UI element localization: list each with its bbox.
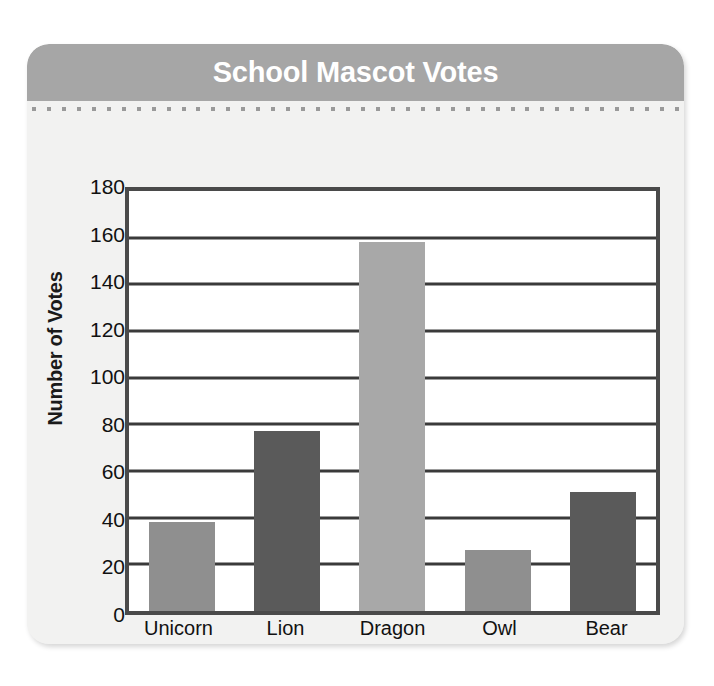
bar-slot	[445, 191, 550, 611]
strip-dot	[137, 107, 141, 111]
strip-dot	[47, 107, 51, 111]
strip-dot	[256, 107, 260, 111]
chart-card: School Mascot Votes Number of Votes 0204…	[27, 44, 684, 644]
strip-dot	[511, 107, 515, 111]
strip-dot	[406, 107, 410, 111]
chart-page: School Mascot Votes Number of Votes 0204…	[0, 0, 714, 686]
strip-dot	[570, 107, 574, 111]
bar-slot	[129, 191, 234, 611]
strip-dot	[376, 107, 380, 111]
chart-header-bar: School Mascot Votes	[27, 44, 684, 101]
y-tick-label: 120	[65, 318, 125, 342]
y-tick-label: 60	[65, 460, 125, 484]
strip-dot	[346, 107, 350, 111]
bar-lion	[254, 431, 320, 611]
strip-dot	[226, 107, 230, 111]
decorative-dot-strip	[27, 101, 684, 117]
strip-dot	[451, 107, 455, 111]
y-tick-label: 180	[65, 175, 125, 199]
strip-dot	[645, 107, 649, 111]
strip-dot	[122, 107, 126, 111]
y-tick-label: 40	[65, 508, 125, 532]
y-axis-label: Number of Votes	[44, 259, 67, 439]
strip-dot	[585, 107, 589, 111]
bar-unicorn	[149, 522, 215, 611]
plot-area	[125, 187, 660, 615]
y-tick-label: 140	[65, 270, 125, 294]
strip-dot	[301, 107, 305, 111]
strip-dot	[466, 107, 470, 111]
strip-dot	[241, 107, 245, 111]
x-tick-label: Unicorn	[125, 617, 232, 640]
y-tick-label: 100	[65, 365, 125, 389]
strip-dot	[361, 107, 365, 111]
strip-dot	[615, 107, 619, 111]
strip-dot	[496, 107, 500, 111]
strip-dot	[331, 107, 335, 111]
strip-dot	[211, 107, 215, 111]
strip-dot	[481, 107, 485, 111]
x-tick-label: Lion	[232, 617, 339, 640]
x-tick-label: Bear	[553, 617, 660, 640]
strip-dot	[316, 107, 320, 111]
bar-slot	[234, 191, 339, 611]
strip-dot	[660, 107, 664, 111]
strip-dot	[600, 107, 604, 111]
x-tick-label: Dragon	[339, 617, 446, 640]
page-title: School Mascot Votes	[27, 44, 684, 101]
x-axis-tick-labels: UnicornLionDragonOwlBear	[125, 617, 660, 640]
y-tick-label: 0	[65, 603, 125, 627]
chart-body: Number of Votes 020406080100120140160180…	[27, 117, 684, 644]
strip-dot	[630, 107, 634, 111]
strip-dot	[421, 107, 425, 111]
strip-dot	[62, 107, 66, 111]
bar-series	[129, 191, 656, 611]
bar-dragon	[359, 242, 425, 611]
strip-dot	[92, 107, 96, 111]
y-tick-label: 160	[65, 223, 125, 247]
bar-bear	[570, 492, 636, 611]
bar-slot	[551, 191, 656, 611]
strip-dot	[436, 107, 440, 111]
y-tick-label: 80	[65, 413, 125, 437]
bar-owl	[465, 550, 531, 611]
strip-dot	[555, 107, 559, 111]
strip-dot	[271, 107, 275, 111]
strip-dot	[525, 107, 529, 111]
y-axis-tick-labels: 020406080100120140160180	[65, 187, 125, 615]
x-tick-label: Owl	[446, 617, 553, 640]
strip-dot	[152, 107, 156, 111]
strip-dot	[196, 107, 200, 111]
strip-dot	[675, 107, 679, 111]
strip-dot	[77, 107, 81, 111]
strip-dot	[167, 107, 171, 111]
strip-dot	[182, 107, 186, 111]
bar-slot	[340, 191, 445, 611]
strip-dot	[32, 107, 36, 111]
y-tick-label: 20	[65, 555, 125, 579]
strip-dot	[391, 107, 395, 111]
strip-dot	[107, 107, 111, 111]
strip-dot	[540, 107, 544, 111]
strip-dot	[286, 107, 290, 111]
